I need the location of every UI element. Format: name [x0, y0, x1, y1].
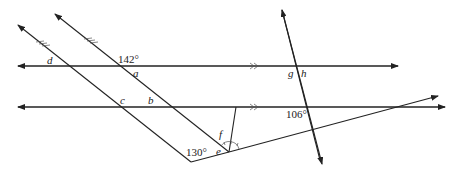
label-d: d [47, 54, 53, 66]
label-c: c [120, 94, 125, 106]
right-ray [229, 96, 438, 152]
label-b: b [148, 94, 154, 106]
label-a: a [133, 67, 139, 79]
short-segment [229, 107, 236, 152]
angle-130-label: 130° [186, 146, 207, 158]
parallel-marks-diagonal [36, 38, 98, 46]
angle-106-label: 106° [286, 108, 307, 120]
geometry-diagram: 142° a d c b f e 130° g h 106° [0, 0, 455, 174]
angle-142-label: 142° [118, 53, 139, 65]
parallel-marks-horizontal [250, 63, 258, 110]
middle-diagonal-line [55, 14, 229, 152]
label-h: h [301, 67, 307, 79]
label-e: e [216, 145, 221, 157]
label-f: f [219, 128, 224, 140]
label-g: g [288, 67, 294, 79]
